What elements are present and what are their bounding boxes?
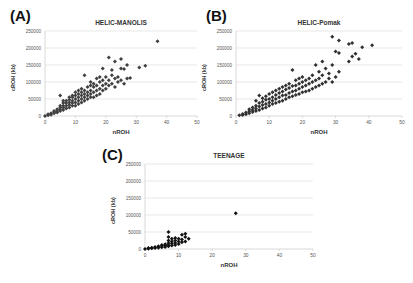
data-point [167,230,171,234]
data-point [155,39,159,43]
data-point [314,63,318,67]
data-point [327,72,331,76]
data-point [347,42,351,46]
data-point [317,70,321,74]
y-axis-label: cROH (kb) [201,64,207,91]
y-tick-label: 250000 [26,29,42,34]
y-tick-label: 0 [229,114,232,119]
data-point [277,87,281,91]
data-point [107,56,111,60]
data-point [300,75,304,79]
data-point [267,92,271,96]
y-tick-label: 200000 [26,46,42,51]
scatter-chart-a: HELIC-MANOLIS050000100000150000200000250… [0,0,205,140]
panel-b: (B) HELIC-Pomak0500001000001500002000002… [200,0,413,140]
y-axis-label: cROH (kb) [10,64,16,91]
y-tick-label: 0 [38,114,41,119]
x-tick-label: 0 [44,120,47,125]
data-point [317,77,321,81]
y-tick-label: 150000 [26,63,42,68]
data-point [101,66,105,70]
data-point [300,85,304,89]
data-point [280,94,284,98]
data-point [280,85,284,89]
data-point [177,237,181,241]
data-point [257,94,261,98]
x-tick-label: 30 [134,120,140,125]
data-point [119,66,123,70]
data-point [360,45,364,49]
chart-title: TEENAGE [213,152,245,159]
data-point [274,93,278,97]
data-point [267,97,271,101]
x-tick-label: 30 [243,253,249,258]
data-point [307,77,311,81]
data-points [143,211,238,251]
data-point [143,247,147,251]
data-point [347,60,351,64]
y-axis-label: cROH (kb) [110,197,116,224]
data-point [119,57,123,61]
x-tick-label: 20 [210,253,216,258]
chart-title: HELIC-MANOLIS [95,19,147,26]
x-tick-label: 40 [366,120,372,125]
data-point [110,73,114,77]
data-point [337,70,341,74]
data-point [297,77,301,81]
data-point [290,68,294,72]
data-points [43,39,159,118]
data-point [113,60,117,64]
data-point [267,104,271,108]
y-tick-label: 50000 [128,230,141,235]
data-point [180,237,184,241]
data-point [324,66,328,70]
data-point [104,75,108,79]
data-point [297,92,301,96]
data-point [304,90,308,94]
data-point [274,89,278,93]
data-points [237,35,374,118]
data-point [128,76,132,80]
x-tick-label: 10 [267,120,273,125]
data-point [320,73,324,77]
x-tick-label: 20 [300,120,306,125]
x-tick-label: 0 [144,253,147,258]
data-point [370,43,374,47]
chart-title: HELIC-Pomak [298,19,341,26]
data-point [146,246,150,250]
x-axis-label: nROH [113,129,130,135]
x-tick-label: 20 [103,120,109,125]
data-point [330,35,334,39]
data-point [300,80,304,84]
data-point [183,240,187,244]
data-point [337,39,341,43]
data-point [251,106,255,110]
data-point [167,239,171,243]
data-point [113,85,117,89]
data-point [183,232,187,236]
data-point [264,106,268,110]
data-point [284,97,288,101]
data-point [122,67,126,71]
y-tick-label: 200000 [217,46,233,51]
panel-a: (A) HELIC-MANOLIS05000010000015000020000… [0,0,205,140]
data-point [170,237,174,241]
data-point [294,83,298,87]
x-tick-label: 10 [73,120,79,125]
data-point [284,93,288,97]
data-point [294,89,298,93]
data-point [337,51,341,55]
data-point [284,83,288,87]
data-point [290,84,294,88]
x-axis-label: nROH [311,129,328,135]
data-point [267,100,271,104]
data-point [317,83,321,87]
data-point [310,73,314,77]
data-point [183,235,187,239]
data-point [137,65,141,69]
x-tick-label: 40 [277,253,283,258]
y-tick-label: 150000 [126,196,142,201]
y-tick-label: 0 [138,247,141,252]
data-point [274,97,278,101]
data-point [330,63,334,67]
